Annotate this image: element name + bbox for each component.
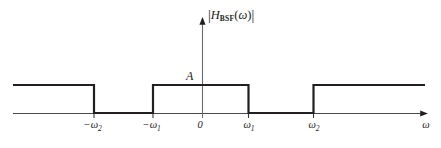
x-axis-label: ω xyxy=(422,120,429,131)
tick-label-neg-omega-1: −ω1 xyxy=(143,120,161,133)
tick-label-neg-omega-2: −ω2 xyxy=(84,120,102,133)
response-curve xyxy=(13,85,425,113)
tick-label-pos-omega-1: ω1 xyxy=(243,120,254,133)
h-symbol: H xyxy=(211,8,220,22)
omega-subscript: 1 xyxy=(251,124,255,133)
h-subscript: BSF xyxy=(220,14,234,23)
bsf-magnitude-response-figure: |HBSF(ω)| A −ω2 −ω1 0 ω1 ω2 ω xyxy=(0,0,441,148)
omega-base: ω xyxy=(91,119,98,130)
tick-label-pos-omega-2: ω2 xyxy=(308,120,319,133)
y-axis-label: |HBSF(ω)| xyxy=(208,9,254,23)
omega-subscript: 2 xyxy=(316,124,320,133)
amplitude-label: A xyxy=(186,70,193,82)
omega-base: ω xyxy=(150,119,157,130)
omega-subscript: 1 xyxy=(157,124,161,133)
tick-label-origin: 0 xyxy=(197,120,202,131)
bar-close: | xyxy=(251,8,254,23)
omega-symbol: ω xyxy=(238,8,247,22)
omega-subscript: 2 xyxy=(98,124,102,133)
